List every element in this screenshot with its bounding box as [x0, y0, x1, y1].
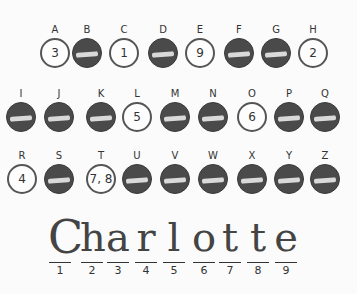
handwritten-letter: o [192, 212, 216, 262]
letter-cell-p: P [272, 88, 306, 132]
position-number: 7, 8 [88, 166, 114, 192]
letter-label: T [84, 150, 118, 162]
letter-cell-s: S [42, 150, 76, 194]
letter-label: S [42, 150, 76, 162]
letter-cell-t: T7, 8 [84, 150, 118, 194]
position-label: 1 [49, 264, 71, 277]
scratched-circle [44, 164, 74, 194]
letter-cell-c: C1 [107, 24, 141, 68]
letter-label: W [196, 150, 230, 162]
open-circle: 2 [298, 38, 328, 68]
letter-cell-g: G [259, 24, 293, 68]
letter-cell-d: D [146, 24, 180, 68]
letter-cell-e: E9 [183, 24, 217, 68]
letter-cell-f: F [222, 24, 256, 68]
blank-underline [193, 262, 215, 263]
scratched-circle [274, 102, 304, 132]
open-circle: 7, 8 [86, 164, 116, 194]
letter-label: H [296, 24, 330, 36]
position-number: 6 [239, 104, 265, 130]
letter-cell-m: M [158, 88, 192, 132]
scratched-circle [72, 38, 102, 68]
letter-cell-u: U [120, 150, 154, 194]
letter-cell-x: X [235, 150, 269, 194]
scratched-circle [198, 164, 228, 194]
letter-label: P [272, 88, 306, 100]
letter-cell-q: Q [308, 88, 342, 132]
position-label: 8 [247, 264, 269, 277]
position-label: 4 [135, 264, 157, 277]
blank-underline [81, 262, 103, 263]
scratched-circle [44, 102, 74, 132]
position-number: 3 [42, 40, 68, 66]
letter-label: L [120, 88, 154, 100]
letter-label: A [38, 24, 72, 36]
blank-underline [107, 262, 129, 263]
letter-label: U [120, 150, 154, 162]
blank-underline [275, 262, 297, 263]
open-circle: 4 [7, 164, 37, 194]
position-number: 5 [124, 104, 150, 130]
letter-cell-o: O6 [235, 88, 269, 132]
letter-cell-h: H2 [296, 24, 330, 68]
letter-label: G [259, 24, 293, 36]
scratched-circle [86, 102, 116, 132]
letter-label: X [235, 150, 269, 162]
letter-cell-r: R4 [5, 150, 39, 194]
open-circle: 3 [40, 38, 70, 68]
letter-cell-l: L5 [120, 88, 154, 132]
letter-label: Z [308, 150, 342, 162]
position-number: 2 [300, 40, 326, 66]
letter-cell-n: N [196, 88, 230, 132]
letter-label: I [4, 88, 38, 100]
blank-underline [163, 262, 185, 263]
scratched-circle [261, 38, 291, 68]
letter-label: E [183, 24, 217, 36]
letter-label: F [222, 24, 256, 36]
handwritten-letter: l [162, 212, 186, 262]
letter-label: B [70, 24, 104, 36]
letter-label: O [235, 88, 269, 100]
position-label: 9 [275, 264, 297, 277]
scratched-circle [160, 102, 190, 132]
scratched-circle [198, 102, 228, 132]
letter-cell-z: Z [308, 150, 342, 194]
letter-label: D [146, 24, 180, 36]
blank-underline [247, 262, 269, 263]
answer-word: C1h2a3r4l5o6t7t8e9 [40, 212, 330, 282]
letter-cell-a: A3 [38, 24, 72, 68]
letter-cell-y: Y [272, 150, 306, 194]
scratched-circle [310, 102, 340, 132]
position-label: 5 [163, 264, 185, 277]
scratched-circle [224, 38, 254, 68]
handwritten-letter: r [134, 212, 158, 262]
letter-cell-w: W [196, 150, 230, 194]
letter-label: Y [272, 150, 306, 162]
handwritten-letter: C [48, 212, 72, 262]
position-number: 9 [187, 40, 213, 66]
blank-underline [135, 262, 157, 263]
position-label: 2 [81, 264, 103, 277]
handwritten-letter: a [106, 212, 130, 262]
handwritten-letter: e [274, 212, 298, 262]
letter-cell-j: J [42, 88, 76, 132]
letter-label: N [196, 88, 230, 100]
letter-label: V [158, 150, 192, 162]
scratched-circle [6, 102, 36, 132]
blank-underline [219, 262, 241, 263]
open-circle: 9 [185, 38, 215, 68]
letter-label: K [84, 88, 118, 100]
scratched-circle [237, 164, 267, 194]
letter-label: M [158, 88, 192, 100]
position-label: 7 [219, 264, 241, 277]
scratched-circle [310, 164, 340, 194]
letter-label: Q [308, 88, 342, 100]
letter-row: R4ST7, 8UVWXYZ [0, 150, 357, 210]
letter-label: R [5, 150, 39, 162]
handwritten-letter: t [218, 212, 242, 262]
letter-cell-b: B [70, 24, 104, 68]
scratched-circle [160, 164, 190, 194]
open-circle: 5 [122, 102, 152, 132]
handwritten-letter: h [80, 212, 104, 262]
position-number: 1 [111, 40, 137, 66]
